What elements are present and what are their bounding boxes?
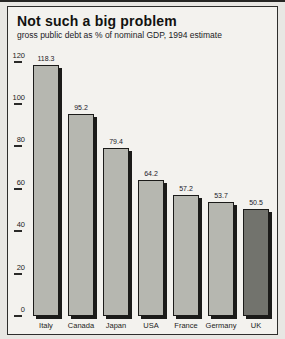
y-axis-tick-mark [14,103,22,105]
x-axis-category-label: Germany [203,321,239,330]
y-axis-tick-mark [14,230,22,232]
y-axis-tick-label: 40 [8,220,25,229]
bar-value-label: 57.2 [166,185,206,192]
x-axis-category-label: UK [238,321,274,330]
bar-chart-plot: 020406080100120118.3Italy95.2Canada79.4J… [8,7,277,334]
y-axis-tick-label: 100 [8,93,25,102]
y-axis-tick-label: 80 [8,135,25,144]
bar-value-label: 118.3 [26,55,66,62]
y-axis-tick-mark [14,315,22,317]
bar-uk [243,209,269,316]
bar-germany [208,202,234,316]
x-axis-category-label: Japan [98,321,134,330]
bar-value-label: 95.2 [61,104,101,111]
y-axis-tick-label: 120 [8,51,25,60]
x-axis-category-label: USA [133,321,169,330]
x-axis-category-label: Canada [63,321,99,330]
bar-usa [138,180,164,316]
y-axis-tick-mark [14,188,22,190]
bar-japan [103,148,129,316]
y-axis-tick-mark [14,145,22,147]
bar-italy [33,65,59,316]
top-rule [0,0,285,2]
y-axis-tick-label: 20 [8,263,25,272]
y-axis-tick-mark [14,61,22,63]
y-axis-tick-mark [14,273,22,275]
chart-card: Not such a big problem gross public debt… [7,6,278,335]
x-axis-category-label: France [168,321,204,330]
bar-value-label: 53.7 [201,192,241,199]
y-axis-tick-label: 0 [8,305,25,314]
y-axis-tick-label: 60 [8,178,25,187]
bar-canada [68,114,94,316]
bar-value-label: 64.2 [131,170,171,177]
bar-value-label: 79.4 [96,138,136,145]
bar-value-label: 50.5 [236,199,276,206]
x-axis-category-label: Italy [28,321,64,330]
bar-france [173,195,199,316]
